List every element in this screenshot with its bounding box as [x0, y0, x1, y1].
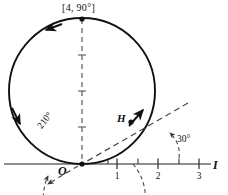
axis-tick-label: 1: [115, 171, 120, 181]
imaginary-axis-dashed: [78, 19, 86, 164]
axis-tick-label: 2: [156, 171, 161, 181]
axis-label-real: I: [213, 159, 218, 171]
point-markers: [79, 16, 133, 166]
point-label-h: H: [117, 113, 126, 124]
polar-locus-figure: [4, 90°] H O I 30° 210° 1 2 3: [0, 0, 228, 195]
origin-label: O: [58, 165, 67, 177]
figure-canvas: [0, 0, 228, 195]
point-label-top: [4, 90°]: [62, 3, 95, 13]
angle-label-30: 30°: [177, 135, 190, 145]
point-marker-origin: [79, 161, 84, 166]
point-marker-top: [79, 16, 84, 21]
axis-tick-label: 3: [197, 171, 202, 181]
point-marker-h: [128, 119, 133, 124]
